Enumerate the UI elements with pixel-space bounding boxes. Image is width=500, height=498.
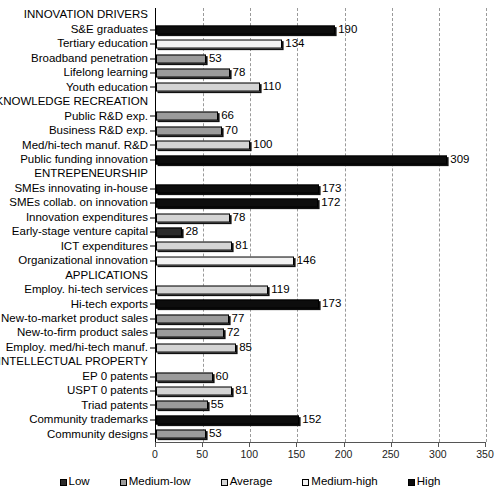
category-label: Employ. hi-tech services [0, 283, 153, 297]
table-row: 78 [156, 210, 485, 224]
category-label-text: New-to-firm product sales [17, 327, 148, 339]
bar-chart: INNOVATION DRIVERSS&E graduatesTertiary … [0, 0, 500, 498]
table-row: 146 [156, 254, 485, 268]
category-label: Business R&D exp. [0, 124, 153, 138]
bar [156, 83, 260, 92]
table-row: 173 [156, 297, 485, 311]
bar-value-label: 55 [208, 400, 224, 412]
x-axis-tick [391, 442, 392, 447]
category-label: Broadband penetration [0, 51, 153, 65]
category-label: Triad patents [0, 398, 153, 412]
category-label: New-to-firm product sales [0, 326, 153, 340]
section-header-row [156, 167, 485, 181]
category-label: Community designs [0, 427, 153, 441]
chart-legend: LowMedium-lowAverageMedium-highHigh [0, 470, 500, 494]
legend-label: Average [230, 476, 273, 488]
category-label-text: New-to-market product sales [1, 313, 148, 325]
category-label-text: S&E graduates [71, 24, 148, 36]
category-label-text: Hi-tech exports [71, 299, 148, 311]
bar-value-label: 28 [182, 226, 198, 238]
category-label-text: Community trademarks [29, 414, 148, 426]
category-label-text: Public R&D exp. [64, 111, 148, 123]
legend-item: Low [60, 476, 90, 488]
plot-area: INNOVATION DRIVERSS&E graduatesTertiary … [0, 0, 500, 446]
x-axis-tick-label: 350 [476, 449, 494, 460]
bar [156, 184, 319, 193]
bar-value-label: 53 [206, 53, 222, 65]
category-label: Community trademarks [0, 413, 153, 427]
bar [156, 415, 299, 424]
legend-label: High [417, 476, 441, 488]
table-row: 309 [156, 153, 485, 167]
category-label-text: INTELLECTUAL PROPERTY [0, 356, 148, 368]
category-label-text: Tertiary education [57, 38, 148, 50]
bar-value-label: 66 [218, 111, 234, 123]
section-header-label: KNOWLEDGE RECREATION [0, 95, 153, 109]
bar-value-label: 60 [213, 371, 229, 383]
category-label-text: Community designs [47, 429, 148, 441]
legend-swatch-icon [408, 479, 415, 486]
bar-value-label: 119 [268, 284, 289, 296]
category-label: Innovation expenditures [0, 210, 153, 224]
table-row: 110 [156, 80, 485, 94]
bar [156, 40, 282, 49]
category-label-text: Employ. med/hi-tech manuf. [6, 342, 148, 354]
bar-value-label: 53 [206, 429, 222, 441]
category-label: Lifelong learning [0, 66, 153, 80]
category-label: Employ. med/hi-tech manuf. [0, 340, 153, 354]
x-axis-tick [296, 442, 297, 447]
section-header-label: ENTREPENEURSHIP [0, 167, 153, 181]
x-axis-tick [155, 442, 156, 447]
category-label: Public funding innovation [0, 153, 153, 167]
legend-item: Medium-high [302, 476, 377, 488]
bar [156, 285, 268, 294]
category-label-text: Lifelong learning [64, 67, 148, 79]
legend-swatch-icon [302, 479, 309, 486]
table-row: 134 [156, 37, 485, 51]
bar [156, 401, 208, 410]
category-label: Early-stage venture capital [0, 225, 153, 239]
bar-value-label: 85 [236, 342, 252, 354]
bar-value-label: 72 [224, 327, 240, 339]
category-label: Med/hi-tech manuf. R&D [0, 138, 153, 152]
bar-value-label: 173 [319, 299, 341, 311]
category-label-text: Organizational innovation [18, 255, 148, 267]
legend-label: Medium-low [129, 476, 191, 488]
category-label: Youth education [0, 80, 153, 94]
table-row: 60 [156, 369, 485, 383]
bar [156, 126, 222, 135]
bar-value-label: 190 [335, 24, 357, 36]
category-label-text: Med/hi-tech manuf. R&D [22, 140, 148, 152]
table-row: 55 [156, 398, 485, 412]
bar [156, 199, 318, 208]
table-row: 81 [156, 239, 485, 253]
bar [156, 387, 232, 396]
category-label: SMEs innovating in-house [0, 181, 153, 195]
table-row: 77 [156, 312, 485, 326]
category-label: SMEs collab. on innovation [0, 196, 153, 210]
bar [156, 54, 206, 63]
section-header-label: APPLICATIONS [0, 268, 153, 282]
table-row: 190 [156, 22, 485, 36]
x-axis-tick [249, 442, 250, 447]
category-label-text: INNOVATION DRIVERS [24, 9, 148, 21]
category-label-text: Triad patents [81, 400, 148, 412]
x-axis-tick-label: 300 [429, 449, 447, 460]
section-header-row [156, 8, 485, 22]
category-label: S&E graduates [0, 22, 153, 36]
table-row: 81 [156, 384, 485, 398]
bar [156, 329, 224, 338]
category-label: Organizational innovation [0, 254, 153, 268]
legend-label: Low [69, 476, 90, 488]
bars-plot-region: 1901345378110667010030917317278288114611… [155, 8, 485, 442]
category-label-text: Youth education [66, 82, 148, 94]
table-row: 70 [156, 124, 485, 138]
bar-value-label: 81 [232, 241, 248, 253]
category-label-text: Employ. hi-tech services [24, 284, 148, 296]
bar-value-label: 172 [318, 197, 340, 209]
bar-value-label: 173 [319, 183, 341, 195]
bar [156, 256, 294, 265]
category-label-text: Innovation expenditures [26, 212, 148, 224]
category-label: ICT expenditures [0, 239, 153, 253]
table-row: 28 [156, 225, 485, 239]
